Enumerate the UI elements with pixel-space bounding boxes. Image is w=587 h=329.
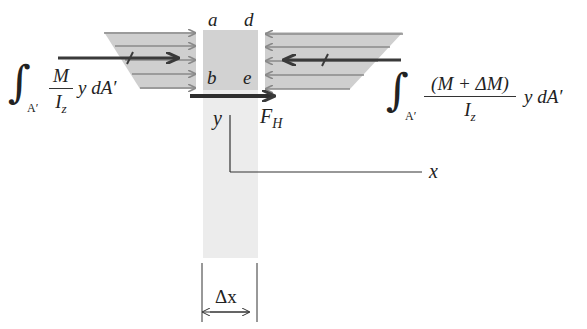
shear-force-label: FH bbox=[260, 106, 282, 131]
label-d: d bbox=[244, 10, 254, 29]
left-integral-sign: ∫ bbox=[8, 60, 31, 104]
right-integral-domain: A′ bbox=[405, 110, 416, 122]
label-e: e bbox=[243, 68, 251, 87]
shear-force-main: F bbox=[260, 105, 272, 127]
shear-force-sub: H bbox=[272, 116, 282, 131]
label-b: b bbox=[207, 68, 217, 87]
y-axis-label: y bbox=[213, 108, 222, 128]
left-numerator: M bbox=[49, 66, 73, 85]
delta-symbol: Δx bbox=[215, 286, 237, 307]
label-a: a bbox=[208, 10, 218, 29]
right-denominator-sub: z bbox=[471, 109, 476, 124]
left-fraction-bar bbox=[49, 88, 73, 89]
right-numerator: (M + ΔM) bbox=[424, 74, 516, 93]
x-axis-label: x bbox=[429, 161, 438, 181]
dimension-label: Δx bbox=[215, 287, 237, 306]
left-fraction: M Iz bbox=[49, 66, 73, 115]
left-denominator: Iz bbox=[49, 92, 73, 115]
left-denominator-sub: z bbox=[62, 101, 67, 116]
right-integral-sign: ∫ bbox=[386, 68, 409, 112]
right-fraction-bar bbox=[424, 96, 516, 97]
diagram-graphics bbox=[0, 0, 587, 329]
left-tail: y dA′ bbox=[78, 78, 116, 97]
right-fraction: (M + ΔM) Iz bbox=[424, 74, 516, 123]
right-tail: y dA′ bbox=[524, 87, 562, 106]
right-denominator: Iz bbox=[424, 100, 516, 123]
left-integral-domain: A′ bbox=[27, 102, 38, 114]
diagram-canvas: a d b e ∫ A′ M Iz y dA′ ∫ A′ (M + ΔM) Iz… bbox=[0, 0, 587, 329]
